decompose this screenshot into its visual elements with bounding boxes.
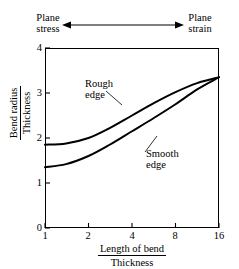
xtick-label-1: 1 (35, 231, 55, 242)
double-headed-arrow-icon (62, 20, 184, 34)
x-axis-label-numerator: Length of bend (98, 243, 166, 256)
y-axis-label-fraction: Bend radius Thickness (8, 86, 33, 140)
y-axis-label-denominator: Thickness (21, 86, 33, 140)
xtick-label-8: 8 (165, 231, 185, 242)
xtick-label-16: 16 (209, 231, 229, 242)
plane-strain-label: Plane strain (176, 12, 224, 34)
rough-edge-line1: Rough (85, 78, 113, 89)
y-axis-label: Bend radius Thickness (0, 48, 40, 178)
curve-label-rough-edge: Rough edge (85, 78, 113, 100)
plane-strain-line2: strain (188, 23, 211, 34)
plot-area (45, 48, 219, 228)
plane-strain-line1: Plane (188, 12, 211, 23)
x-axis-label-denominator: Thickness (98, 256, 166, 268)
y-tick-marks (45, 48, 50, 228)
smooth-edge-line1: Smooth (146, 148, 179, 159)
figure: Plane stress Plane strain (0, 0, 239, 269)
y-axis-label-numerator: Bend radius (8, 86, 21, 140)
curve-rough-edge (45, 77, 219, 145)
xtick-label-2: 2 (78, 231, 98, 242)
x-tick-marks (45, 223, 219, 228)
x-axis-label-fraction: Length of bend Thickness (98, 243, 166, 268)
xtick-label-4: 4 (122, 231, 142, 242)
curve-label-smooth-edge: Smooth edge (146, 148, 179, 170)
curve-smooth-edge (45, 77, 219, 167)
x-axis-label: Length of bend Thickness (45, 243, 219, 269)
ytick-label-1: 1 (28, 178, 42, 189)
rough-edge-line2: edge (85, 89, 105, 100)
smooth-edge-line2: edge (146, 159, 166, 170)
